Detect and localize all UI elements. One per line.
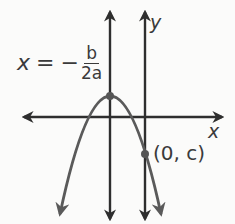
equation-lhs: x <box>17 52 30 74</box>
vertex-point <box>106 92 114 100</box>
graph-canvas <box>0 0 235 224</box>
y-intercept-point <box>141 150 149 158</box>
x-axis-label: x <box>208 122 219 141</box>
equation-fraction: b 2a <box>81 45 102 82</box>
equation-equals: = <box>36 52 54 74</box>
fraction-denominator: 2a <box>81 64 102 82</box>
axis-of-symmetry-equation: x = − b 2a <box>17 46 102 80</box>
y-axis-label: y <box>150 13 161 32</box>
parabola-diagram: x = − b 2a y x (0, c) <box>0 0 235 224</box>
fraction-numerator: b <box>84 45 99 64</box>
equation-minus: − <box>60 52 78 74</box>
y-intercept-label: (0, c) <box>153 143 205 163</box>
